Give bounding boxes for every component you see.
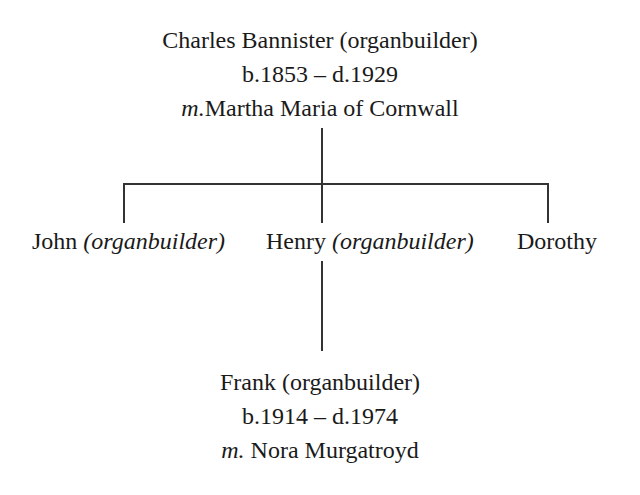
grandchild-marriage-prefix: m. (221, 437, 244, 463)
child-dorothy: Dorothy (517, 225, 597, 257)
child-henry: Henry (organbuilder) (266, 225, 474, 257)
grandchild-spouse: Nora Murgatroyd (245, 437, 419, 463)
grandchild-marriage-line: m. Nora Murgatroyd (0, 434, 640, 466)
child-john: John (organbuilder) (32, 225, 225, 257)
root-name-line: Charles Bannister (organbuilder) (0, 24, 640, 56)
root-connector (321, 128, 323, 184)
grandchild-role: (organbuilder) (282, 369, 420, 395)
henry-connector (321, 183, 323, 223)
grandchild-name-line: Frank (organbuilder) (0, 366, 640, 398)
henry-to-frank-connector (321, 261, 323, 351)
dorothy-connector (547, 183, 549, 223)
child-john-name: John (32, 228, 77, 254)
child-henry-role: (organbuilder) (332, 228, 474, 254)
child-henry-name: Henry (266, 228, 326, 254)
root-spouse: Martha Maria of Cornwall (205, 95, 459, 121)
root-dates: b.1853 – d.1929 (0, 58, 640, 90)
child-john-role: (organbuilder) (83, 228, 225, 254)
grandchild-name: Frank (220, 369, 276, 395)
root-marriage-line: m.Martha Maria of Cornwall (0, 92, 640, 124)
root-name: Charles Bannister (162, 27, 333, 53)
root-marriage-prefix: m. (181, 95, 204, 121)
root-role: (organbuilder) (340, 27, 478, 53)
sibling-bar (123, 183, 549, 185)
grandchild-dates: b.1914 – d.1974 (0, 400, 640, 432)
child-dorothy-name: Dorothy (517, 228, 597, 254)
john-connector (123, 183, 125, 223)
